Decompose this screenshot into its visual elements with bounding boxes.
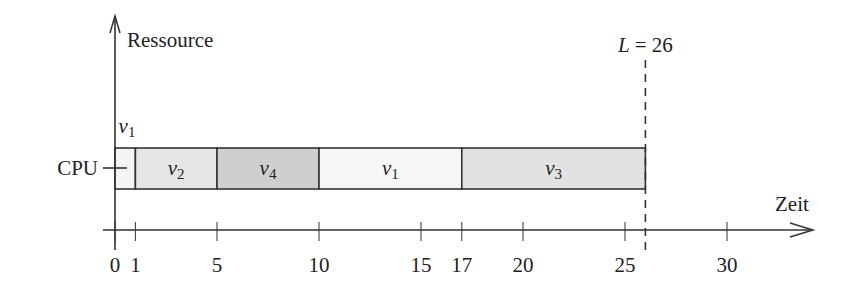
deadline-label: L = 26 — [617, 33, 673, 57]
x-tick-label-25: 25 — [615, 253, 636, 277]
x-tick-label-10: 10 — [309, 253, 330, 277]
gantt-chart: v1v2v4v1v3RessourceCPUZeit01510151720253… — [0, 0, 863, 297]
x-tick-label-1: 1 — [130, 253, 141, 277]
x-tick-label-30: 30 — [717, 253, 738, 277]
resource-label-cpu: CPU — [57, 156, 98, 180]
x-tick-label-15: 15 — [411, 253, 432, 277]
y-axis-label: Ressource — [127, 28, 213, 52]
x-tick-label-5: 5 — [212, 253, 223, 277]
x-tick-label-0: 0 — [110, 253, 121, 277]
x-axis-label: Zeit — [775, 192, 809, 216]
x-tick-label-17: 17 — [451, 253, 472, 277]
task-label-v1-above: v1 — [119, 114, 136, 140]
x-tick-label-20: 20 — [513, 253, 534, 277]
